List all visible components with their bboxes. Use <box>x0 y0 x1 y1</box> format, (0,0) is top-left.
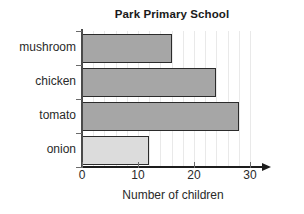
y-tick <box>76 31 82 32</box>
gridline <box>239 31 240 167</box>
gridline <box>250 31 251 167</box>
gridline <box>205 31 206 167</box>
category-label-mushroom: mushroom <box>19 40 76 54</box>
category-label-onion: onion <box>47 142 76 156</box>
x-axis-line <box>82 166 264 168</box>
gridline <box>183 31 184 167</box>
x-axis-title: Number of children <box>82 188 264 202</box>
bar-tomato <box>82 102 239 131</box>
category-label-chicken: chicken <box>35 74 76 88</box>
gridline <box>228 31 229 167</box>
category-label-tomato: tomato <box>39 108 76 122</box>
x-axis-arrow-icon <box>262 163 271 171</box>
bar-chicken <box>82 68 216 97</box>
chart-title: Park Primary School <box>0 8 304 20</box>
y-tick <box>76 133 82 134</box>
x-tick-label-0: 0 <box>79 168 86 182</box>
x-tick-label-20: 20 <box>187 168 200 182</box>
bar-chart-screenshot: Park Primary School mushroomchickentomat… <box>0 0 304 214</box>
plot-area <box>82 31 250 167</box>
bar-onion <box>82 136 149 165</box>
y-tick <box>76 65 82 66</box>
bar-mushroom <box>82 34 172 63</box>
y-tick <box>76 99 82 100</box>
x-tick-label-10: 10 <box>131 168 144 182</box>
x-tick-label-30: 30 <box>243 168 256 182</box>
gridline <box>194 31 195 167</box>
gridline <box>172 31 173 167</box>
gridline <box>216 31 217 167</box>
